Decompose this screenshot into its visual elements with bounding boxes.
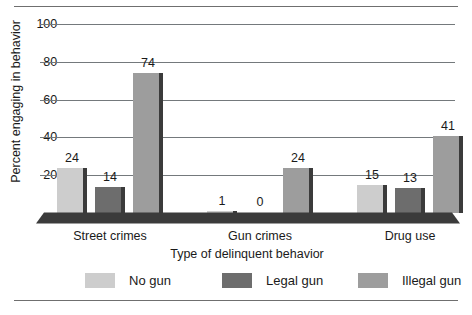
bar (57, 168, 87, 213)
bar-face (95, 187, 121, 213)
bar-value-label: 15 (351, 169, 393, 182)
legend-swatch-icon (358, 273, 388, 288)
legend-label: Legal gun (266, 273, 323, 288)
bar-value-label: 1 (201, 195, 243, 208)
bar-side-shadow (159, 73, 163, 213)
legend-item[interactable]: Illegal gun (358, 270, 461, 290)
axis-floor-slab (36, 212, 460, 224)
legend-swatch-icon (222, 273, 252, 288)
x-axis-title: Type of delinquent behavior (0, 247, 472, 261)
y-axis-tick-mark (40, 24, 57, 25)
bar (433, 136, 463, 213)
bar-face (133, 73, 159, 213)
bar (283, 168, 313, 213)
y-axis-tick-40: 40 (0, 131, 57, 144)
bar-value-label: 13 (389, 172, 431, 185)
y-axis-tick-mark (40, 100, 57, 101)
bar-value-label: 0 (239, 196, 281, 209)
bar-value-label: 14 (89, 171, 131, 184)
bar-face (357, 185, 383, 213)
bar-face (433, 136, 459, 213)
y-axis-tick-60: 60 (0, 94, 57, 107)
bar-side-shadow (459, 136, 463, 213)
gridline-80 (57, 62, 455, 63)
bar (357, 185, 387, 213)
y-axis-tick-mark (40, 175, 57, 176)
y-axis-tick-80: 80 (0, 56, 57, 69)
legend-label: No gun (129, 273, 171, 288)
gridline-40 (57, 137, 455, 138)
y-axis-tick-mark (40, 62, 57, 63)
bar-side-shadow (83, 168, 87, 213)
gridline-100 (57, 24, 455, 25)
legend-item[interactable]: No gun (85, 270, 171, 290)
y-axis-tick-mark (40, 137, 57, 138)
bar-value-label: 74 (127, 57, 169, 70)
legend-label: Illegal gun (402, 273, 461, 288)
bar-value-label: 41 (427, 120, 469, 133)
gridline-60 (57, 100, 455, 101)
bar-side-shadow (309, 168, 313, 213)
bar-value-label: 24 (51, 152, 93, 165)
x-axis-category-label: Gun crimes (180, 229, 340, 243)
legend-swatch-icon (85, 273, 115, 288)
bar (395, 188, 425, 213)
bar (133, 73, 163, 213)
bar-side-shadow (421, 188, 425, 213)
legend-item[interactable]: Legal gun (222, 270, 323, 290)
chart-legend: No gunLegal gunIllegal gun (0, 270, 472, 292)
bar-face (283, 168, 309, 213)
bar (95, 187, 125, 213)
y-axis-tick-20: 20 (0, 169, 57, 182)
plot-area: 2414741024151341 (57, 24, 455, 213)
y-axis-tick-100: 100 (0, 18, 57, 31)
x-axis-category-label: Drug use (330, 229, 472, 243)
bar-side-shadow (383, 185, 387, 213)
bar-value-label: 24 (277, 152, 319, 165)
bar-face (57, 168, 83, 213)
bar-face (395, 188, 421, 213)
x-axis-category-label: Street crimes (30, 229, 190, 243)
x-axis-title-text: Type of delinquent behavior (170, 247, 324, 261)
bar-side-shadow (121, 187, 125, 213)
bar-chart: Percent engaging in behavior 20406080100… (0, 0, 472, 315)
